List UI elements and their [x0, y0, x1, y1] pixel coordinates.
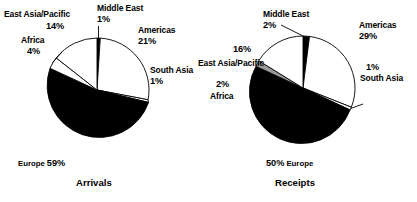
- leader-line-middle-east: [281, 25, 305, 37]
- label-europe-name: Europe: [286, 159, 313, 168]
- label-east-asia-pacific-value: 16%: [233, 44, 251, 54]
- caption-arrivals: Arrivals: [76, 177, 112, 188]
- label-africa-name: Africa: [21, 35, 45, 45]
- label-americas-name: Americas: [138, 25, 175, 35]
- chart-panel-arrivals: East Asia/Pacific 14% Middle East 1% Ame…: [0, 0, 209, 202]
- pie-slice-americas: [97, 38, 149, 100]
- label-europe: 50% Europe: [266, 158, 313, 168]
- label-east-asia-pacific-name: East Asia/Pacific: [198, 58, 264, 68]
- chart-panel-receipts: Middle East 2% Americas 29% 16% East Asi…: [208, 0, 417, 202]
- label-middle-east-name: Middle East: [263, 9, 309, 19]
- label-south-asia-name: South Asia: [360, 73, 403, 83]
- label-americas-value: 21%: [138, 36, 156, 46]
- label-europe: Europe 59%: [18, 158, 65, 168]
- label-east-asia-pacific-value: 14%: [46, 21, 64, 31]
- label-south-asia-value: 1%: [366, 62, 379, 72]
- label-africa-name: Africa: [210, 91, 234, 101]
- label-europe-value: 59%: [47, 158, 65, 168]
- label-europe-value: 50%: [266, 158, 284, 168]
- label-east-asia-pacific-name: East Asia/Pacific: [4, 9, 70, 19]
- label-africa-value: 4%: [27, 46, 40, 56]
- label-americas-name: Americas: [359, 20, 396, 30]
- label-middle-east-value: 1%: [97, 14, 110, 24]
- label-europe-name: Europe: [18, 159, 45, 168]
- pie-receipts: [208, 0, 417, 202]
- label-africa-value: 2%: [216, 79, 229, 89]
- label-south-asia-name: South Asia: [150, 65, 193, 75]
- label-middle-east-value: 2%: [263, 20, 276, 30]
- pie-arrivals: [0, 0, 209, 202]
- label-middle-east-name: Middle East: [97, 3, 143, 13]
- label-americas-value: 29%: [359, 31, 377, 41]
- label-south-asia-value: 1%: [150, 76, 163, 86]
- caption-receipts: Receipts: [275, 177, 315, 188]
- pie-chart-figure: East Asia/Pacific 14% Middle East 1% Ame…: [0, 0, 417, 202]
